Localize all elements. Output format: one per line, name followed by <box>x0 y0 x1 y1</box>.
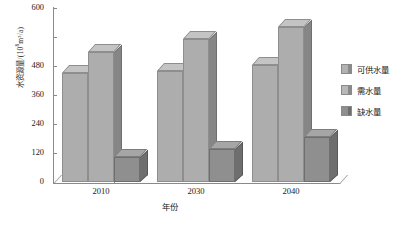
bar-face <box>183 39 209 182</box>
legend-label-supply: 可供水量 <box>357 63 389 75</box>
bar-face <box>114 157 140 182</box>
bar-face <box>209 149 235 182</box>
legend-item-shortage: 缺水量 <box>341 100 389 121</box>
bar-2040-shortage <box>304 137 330 182</box>
legend-swatch-demand-icon <box>341 85 352 95</box>
x-tick-label-2040: 2040 <box>261 186 321 196</box>
bar-face <box>62 73 88 182</box>
legend-swatch-shortage-icon <box>341 106 352 116</box>
bar-2040-supply <box>252 65 278 182</box>
bar-2040-demand <box>278 27 304 182</box>
bar-2010-shortage <box>114 157 140 182</box>
bar-2030-demand <box>183 39 209 182</box>
bar-2010-supply <box>62 73 88 182</box>
bar-face <box>88 52 114 183</box>
x-tick-label-2030: 2030 <box>166 186 226 196</box>
chart-legend: 可供水量 需水量 缺水量 <box>341 58 389 121</box>
bar-face <box>157 71 183 182</box>
bar-face <box>252 65 278 182</box>
legend-label-shortage: 缺水量 <box>357 105 381 117</box>
legend-swatch-supply-icon <box>341 64 352 74</box>
x-axis-title: 年份 <box>0 200 340 212</box>
bar-face <box>278 27 304 182</box>
bar-side <box>330 130 338 182</box>
bar-2010-demand <box>88 52 114 183</box>
legend-label-demand: 需水量 <box>357 84 381 96</box>
bar-2030-shortage <box>209 149 235 182</box>
x-tick-label-2010: 2010 <box>71 186 131 196</box>
bar-2030-supply <box>157 71 183 182</box>
bar-chart: 水资源量/(108m³/a) 0 120 240 360 480 600 <box>0 0 408 225</box>
bar-face <box>304 137 330 182</box>
legend-item-supply: 可供水量 <box>341 58 389 79</box>
legend-item-demand: 需水量 <box>341 79 389 100</box>
